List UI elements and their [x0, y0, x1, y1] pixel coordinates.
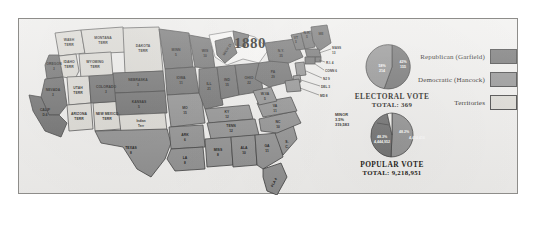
map-label-va: VA — [273, 104, 278, 108]
map-label-wash-2: TERR — [64, 43, 74, 47]
map-label-ohio: OHIO — [245, 76, 254, 80]
map-label-kansas-electors: 5 — [138, 105, 140, 109]
map-label-wyoming: WYOMING — [86, 60, 104, 64]
state-ark — [169, 125, 205, 149]
map-label-wis-electors: 10 — [203, 54, 207, 58]
map-label-wash: WASH — [64, 38, 75, 42]
popular-vote-pie: 48.2% 4,414,416 48.3% 4,444,952 MINOR 3.… — [337, 111, 447, 159]
map-label-kansas: KANSAS — [132, 100, 147, 104]
map-label-nh-electors: 5 — [306, 35, 308, 39]
popular-vote-total: TOTAL: 9,218,951 — [337, 169, 447, 177]
map-label-conn: CONN 6 — [325, 69, 337, 73]
electoral-republican-pct: 58% — [378, 64, 386, 68]
map-label-ark: ARK — [181, 133, 189, 137]
map-label-calif: CALIF — [40, 108, 50, 112]
page-title-year: 1880 — [215, 35, 285, 52]
popular-democratic-value: 4,414,416 — [409, 136, 425, 140]
map-label-ky: KY — [225, 110, 230, 114]
map-label-nc: NC — [276, 120, 281, 124]
map-label-ala: ALA — [240, 146, 248, 150]
leader-line-md — [300, 88, 319, 95]
election-map-figure: WASH TERR OREGON 3 CALIF D-6 NEVADA 3 ID… — [0, 0, 538, 225]
map-label-ill-electors: 21 — [207, 87, 211, 91]
map-label-va-electors: 11 — [273, 109, 277, 113]
popular-vote-chart: 48.2% 4,414,416 48.3% 4,444,952 MINOR 3.… — [337, 111, 447, 177]
leader-line-nj — [306, 71, 322, 78]
map-legend: Republican (Garfield) Democratic (Hancoc… — [419, 49, 517, 118]
map-label-ind-electors: 15 — [225, 83, 229, 87]
legend-swatch-territories — [490, 95, 517, 110]
map-label-ill: ILL — [206, 82, 211, 86]
map-label-nebraska: NEBRASKA — [128, 78, 148, 82]
map-label-newmexico: NEW MEXICO — [96, 112, 119, 116]
map-label-arizona-2: TERR — [74, 117, 84, 121]
map-label-nebraska-electors: 3 — [137, 83, 139, 87]
map-label-nc-electors: 10 — [276, 125, 280, 129]
map-label-colorado-electors: 3 — [105, 90, 107, 94]
map-label-ark-electors: 6 — [184, 138, 186, 142]
map-label-ga-electors: 11 — [265, 149, 269, 153]
map-label-ala-electors: 10 — [242, 151, 246, 155]
map-label-montana-2: TERR — [98, 41, 108, 45]
map-label-wyoming-2: TERR — [90, 65, 100, 69]
map-label-arizona: ARIZONA — [71, 112, 87, 116]
legend-label-republican: Republican (Garfield) — [420, 53, 485, 61]
map-label-vt-electors: 5 — [295, 40, 297, 44]
popular-minor-value: 319,583 — [335, 123, 349, 128]
map-label-idaho: IDAHO — [63, 60, 74, 64]
map-label-miss: MISS — [214, 148, 223, 152]
map-label-texas: TEXAS — [125, 146, 137, 150]
popular-minor-callout: MINOR 3.5% 319,583 — [335, 113, 349, 127]
map-label-sc-2: C. — [285, 145, 289, 149]
map-label-indian-terr: Indian — [136, 119, 145, 123]
map-label-wva: W.VA — [261, 92, 270, 96]
map-label-la: LA — [183, 156, 188, 160]
map-label-tenn: TENN — [226, 124, 236, 128]
map-label-nj: NJ 9 — [323, 77, 330, 81]
map-label-ny-electors: 35 — [279, 54, 283, 58]
map-label-dakota-2: TERR — [138, 49, 148, 53]
map-label-ind: IND — [224, 78, 230, 82]
popular-democratic-pct: 48.2% — [399, 130, 410, 134]
map-label-la-electors: 8 — [184, 161, 186, 165]
state-mass — [305, 49, 321, 57]
map-label-indian-terr-2: Terr — [138, 124, 145, 128]
map-label-ky-electors: 12 — [225, 115, 229, 119]
figure-plate: WASH TERR OREGON 3 CALIF D-6 NEVADA 3 ID… — [18, 18, 518, 194]
map-label-ohio-electors: 22 — [247, 81, 251, 85]
map-label-pa: PA — [271, 70, 276, 74]
map-label-pa-electors: 29 — [271, 75, 275, 79]
legend-swatch-democratic — [490, 72, 517, 87]
state-conn — [305, 57, 315, 64]
legend-swatch-republican — [490, 49, 517, 64]
map-label-mo: MO — [182, 106, 188, 110]
popular-vote-caption: POPULAR VOTE TOTAL: 9,218,951 — [337, 160, 447, 177]
legend-label-democratic: Democratic (Hancock) — [418, 76, 485, 84]
state-ri — [315, 57, 321, 62]
electoral-republican-value: 214 — [379, 69, 385, 73]
legend-item-territories: Territories — [419, 95, 517, 110]
map-label-colorado: COLORADO — [96, 85, 116, 89]
state-texas — [95, 129, 171, 177]
legend-label-territories: Territories — [454, 99, 485, 107]
map-label-idaho-2: TERR — [64, 65, 74, 69]
map-label-mo-electors: 15 — [183, 111, 187, 115]
legend-item-democratic: Democratic (Hancock) — [419, 72, 517, 87]
map-label-iowa-electors: 11 — [179, 81, 183, 85]
map-label-minn: MINN — [172, 48, 181, 52]
map-label-newmexico-2: TERR — [102, 117, 112, 121]
map-label-montana: MONTANA — [94, 36, 112, 40]
map-label-del: DEL 3 — [321, 85, 330, 89]
map-label-tenn-electors: 12 — [229, 129, 233, 133]
map-label-oregon: OREGON — [46, 62, 62, 66]
map-label-ri: R.I. 4 — [326, 61, 334, 65]
legend-item-republican: Republican (Garfield) — [419, 49, 517, 64]
map-label-wva-electors: 5 — [264, 97, 266, 101]
map-label-iowa: IOWA — [176, 76, 186, 80]
electoral-democratic-pct: 42% — [399, 60, 407, 64]
map-label-minn-electors: 5 — [175, 53, 177, 57]
map-label-nevada: NEVADA — [46, 88, 61, 92]
state-miss — [205, 137, 233, 167]
map-label-sc: S. — [285, 140, 288, 144]
state-mo — [167, 93, 205, 127]
